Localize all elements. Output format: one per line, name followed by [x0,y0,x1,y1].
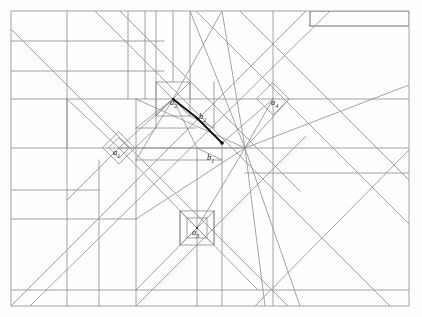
point-b2-dot [196,117,198,119]
label-a2-sub: 2 [174,103,177,109]
label-a4: a4 [271,98,278,109]
label-b1: b1 [207,153,214,164]
line-arrangement-figure: a1 a2 a3 a4 b1 b2 [0,0,422,317]
label-a2: a2 [170,98,177,109]
label-a1-sub: 1 [117,153,120,159]
label-a4-sub: 4 [275,103,278,109]
label-a3-sub: 3 [196,233,199,239]
label-b1-sub: 1 [211,158,214,164]
point-b1-dot [220,141,224,145]
label-a3: a3 [192,228,199,239]
label-a1: a1 [113,148,120,159]
label-b2: b2 [199,112,206,123]
label-b2-sub: 2 [203,117,206,123]
